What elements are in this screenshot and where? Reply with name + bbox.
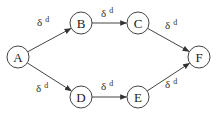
edge-label: δd <box>101 6 113 19</box>
arrow-line <box>148 28 189 51</box>
edge-label: δd <box>101 79 113 92</box>
node-label: D <box>76 90 85 105</box>
node-label: C <box>134 16 143 31</box>
node-f: F <box>188 46 210 68</box>
node-e: E <box>127 86 149 108</box>
edge-label: δd <box>165 77 177 90</box>
flow-diagram: δdδdδdδdδdδd ABCDEF <box>0 0 219 113</box>
node-label: F <box>195 50 202 65</box>
node-b: B <box>70 12 92 34</box>
edge-c-f <box>148 28 189 51</box>
edge-label: δd <box>36 81 48 94</box>
node-label: B <box>77 16 86 31</box>
edge-a-d <box>27 63 71 91</box>
edge-a-b <box>28 28 71 51</box>
arrow-line <box>28 28 71 51</box>
edge-label: δd <box>37 15 49 28</box>
edge-labels-group: δdδdδdδdδdδd <box>36 6 177 94</box>
node-a: A <box>7 46 29 68</box>
node-d: D <box>70 86 92 108</box>
arrow-line <box>27 63 71 91</box>
node-c: C <box>127 12 149 34</box>
edge-label: δd <box>165 18 177 31</box>
node-label: E <box>134 90 142 105</box>
node-label: A <box>13 50 23 65</box>
